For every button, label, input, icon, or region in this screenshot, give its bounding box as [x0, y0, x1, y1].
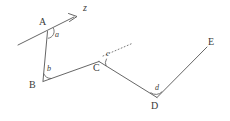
point-label-B: B [29, 80, 36, 90]
geometry-figure: A B C D E a b c d z [0, 0, 230, 121]
angle-label-b: b [47, 65, 51, 73]
point-label-E: E [208, 37, 214, 47]
angle-b-arc [44, 74, 52, 79]
ray-label-z: z [83, 3, 87, 13]
segment-CD [99, 62, 157, 98]
point-label-A: A [39, 17, 46, 27]
point-label-D: D [151, 101, 158, 111]
figure-canvas [0, 0, 230, 121]
angle-c-arc [105, 59, 106, 66]
point-label-C: C [93, 63, 100, 73]
angle-label-a: a [55, 31, 59, 39]
angle-label-c: c [106, 50, 110, 58]
segment-DE [157, 47, 207, 98]
angle-label-d: d [155, 84, 159, 92]
